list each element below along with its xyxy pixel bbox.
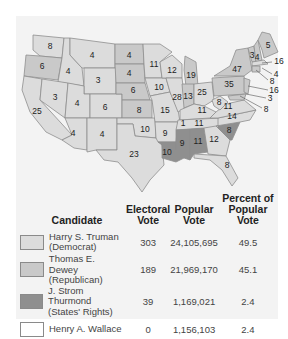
label-ri: 4: [274, 69, 279, 79]
label-de: 3: [268, 93, 273, 103]
label-wi: 12: [167, 65, 177, 75]
popular-vote: 1,156,103: [170, 317, 218, 339]
label-ar: 9: [163, 128, 168, 138]
header-percent-popular-vote: Percent of Popular Vote: [218, 193, 278, 230]
popular-vote: 24,105,695: [170, 230, 218, 254]
electoral-vote: 0: [126, 317, 170, 339]
label-ky: 11: [198, 105, 207, 115]
label-in: 13: [183, 91, 193, 101]
label-wv: 8: [217, 97, 222, 107]
header-popular-vote: Popular Vote: [170, 193, 218, 230]
label-ia: 10: [154, 82, 164, 92]
label-al: 11: [194, 136, 203, 146]
label-nv: 3: [53, 92, 58, 102]
label-nh: 4: [255, 52, 260, 62]
candidate-name: Thomas E. Dewey: [49, 254, 126, 275]
label-id: 4: [66, 66, 71, 76]
label-nd: 4: [127, 50, 132, 60]
header-electoral-vote: Electoral Vote: [126, 193, 170, 230]
percent-vote: 2.4: [218, 317, 278, 339]
candidate-party: (Democrat): [49, 242, 119, 253]
electoral-vote: 303: [126, 230, 170, 254]
label-ne: 6: [131, 85, 136, 95]
label-ga: 12: [209, 134, 219, 144]
table-row-truman: Harry S. Truman (Democrat) 303 24,105,69…: [20, 230, 278, 254]
candidate-name: Henry A. Wallace: [49, 324, 122, 335]
label-mi: 19: [186, 70, 196, 80]
table-row-wallace: Henry A. Wallace 0 1,156,103 2.4: [20, 317, 278, 339]
label-mt: 4: [90, 50, 95, 60]
candidate-party: (States' Rights): [48, 307, 126, 318]
states-rights-swatch: [20, 294, 43, 309]
label-wy: 3: [96, 75, 101, 85]
label-oh: 25: [197, 87, 207, 97]
label-tx: 23: [129, 149, 139, 159]
percent-vote: 2.4: [218, 286, 278, 318]
label-il: 28: [172, 92, 182, 102]
label-co: 6: [103, 102, 108, 112]
percent-vote: 49.5: [218, 230, 278, 254]
us-electoral-map: 8 6 25 4 3 4 3 4 4 6 4 4 4 6 8 10 23 11 …: [0, 0, 288, 200]
wallace-swatch: [20, 322, 44, 337]
label-mn: 11: [150, 59, 159, 69]
state-fl: [194, 154, 238, 186]
candidate-party: (Republican): [49, 275, 126, 286]
label-az: 4: [71, 128, 76, 138]
label-va: 11: [224, 101, 233, 111]
label-tn: 11: [195, 118, 204, 128]
label-nc: 14: [227, 111, 237, 121]
state-ct: [252, 66, 260, 72]
label-pa: 35: [224, 79, 234, 89]
label-md: 8: [264, 104, 269, 114]
label-fl: 8: [225, 160, 230, 170]
table-row-dewey: Thomas E. Dewey (Republican) 189 21,969,…: [20, 254, 278, 286]
electoral-vote: 39: [126, 286, 170, 318]
democrat-swatch: [20, 235, 44, 250]
electoral-vote: 189: [126, 254, 170, 286]
label-la: 10: [162, 147, 172, 157]
label-ca: 25: [32, 106, 42, 116]
label-ma: 16: [274, 56, 284, 66]
label-nm: 4: [100, 129, 105, 139]
label-me: 5: [266, 40, 271, 50]
candidate-name: J. Strom Thurmond: [48, 286, 126, 307]
label-ok: 10: [140, 124, 150, 134]
percent-vote: 45.1: [218, 254, 278, 286]
label-ut: 4: [75, 98, 80, 108]
header-candidate: Candidate: [20, 193, 126, 230]
label-sd: 4: [127, 68, 132, 78]
label-ny: 47: [232, 64, 242, 74]
election-results-table: Candidate Electoral Vote Popular Vote Pe…: [20, 193, 278, 339]
republican-swatch: [20, 262, 44, 277]
label-sc: 8: [227, 125, 232, 135]
popular-vote: 1,169,021: [170, 286, 218, 318]
label-ks: 8: [137, 105, 142, 115]
label-mo: 15: [160, 105, 170, 115]
table-row-thurmond: J. Strom Thurmond (States' Rights) 39 1,…: [20, 286, 278, 318]
popular-vote: 21,969,170: [170, 254, 218, 286]
label-tn-split: 1: [181, 118, 186, 128]
table-header-row: Candidate Electoral Vote Popular Vote Pe…: [20, 193, 278, 230]
label-ms: 9: [180, 138, 185, 148]
label-wa: 8: [48, 41, 53, 51]
label-or: 6: [40, 61, 45, 71]
